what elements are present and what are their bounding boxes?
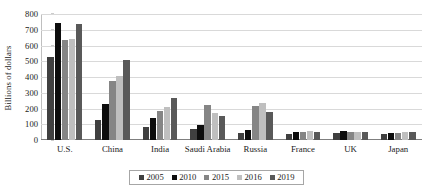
legend-label: 2005 <box>147 173 164 182</box>
bar <box>238 133 244 140</box>
bar <box>76 24 82 140</box>
bar-group <box>136 14 184 140</box>
bar <box>388 133 394 140</box>
bar-group <box>184 14 232 140</box>
bar <box>95 120 101 140</box>
x-axis-category-label: France <box>279 142 327 158</box>
bar <box>300 132 306 140</box>
bar <box>381 134 387 140</box>
y-axis-tick-label: 100 <box>13 120 38 129</box>
legend-swatch-icon <box>139 175 144 180</box>
bar <box>157 111 163 140</box>
y-axis-title-text: Billions of dollars <box>3 45 13 110</box>
legend-swatch-icon <box>172 175 177 180</box>
y-axis-tick-label: 700 <box>13 25 38 34</box>
x-axis-category-label: Saudi Arabia <box>184 142 232 158</box>
chart-legend: 20052010201520162019 <box>129 170 304 185</box>
bar <box>197 125 203 140</box>
x-axis-category-label: Russia <box>232 142 280 158</box>
bar <box>252 106 258 140</box>
legend-item[interactable]: 2005 <box>139 173 164 182</box>
x-axis-category-label: U.S. <box>41 142 89 158</box>
y-axis-tick-label: 400 <box>13 73 38 82</box>
bar <box>204 105 210 140</box>
legend-item[interactable]: 2016 <box>237 173 262 182</box>
y-axis-tick-label: 300 <box>13 88 38 97</box>
bar <box>102 104 108 140</box>
x-axis-category-label: UK <box>327 142 375 158</box>
legend-swatch-icon <box>204 175 209 180</box>
bar <box>293 132 299 140</box>
legend-swatch-icon <box>237 175 242 180</box>
bar <box>219 116 225 140</box>
bar-chart-figure: Billions of dollars 80070060050040030020… <box>0 0 430 193</box>
x-axis-category-label: India <box>136 142 184 158</box>
legend-item[interactable]: 2015 <box>204 173 229 182</box>
bar-group <box>374 14 422 140</box>
bar <box>307 131 313 140</box>
bar <box>123 60 129 140</box>
x-axis-category-labels: U.S.ChinaIndiaSaudi ArabiaRussiaFranceUK… <box>41 142 422 158</box>
bar <box>333 133 339 140</box>
y-axis-tick-label: 0 <box>13 136 38 145</box>
bar-group <box>327 14 375 140</box>
bar <box>286 134 292 140</box>
bar <box>354 132 360 140</box>
bar <box>143 127 149 140</box>
bar <box>212 113 218 140</box>
bar <box>245 130 251 140</box>
bar <box>171 98 177 140</box>
bar-groups <box>41 14 422 140</box>
legend-swatch-icon <box>270 175 275 180</box>
legend-label: 2019 <box>277 173 294 182</box>
bar <box>259 103 265 140</box>
y-axis-tick-label: 500 <box>13 57 38 66</box>
bar <box>362 132 368 140</box>
bar <box>347 132 353 140</box>
bar <box>69 39 75 140</box>
bar <box>266 112 272 140</box>
bar-group <box>232 14 280 140</box>
bar <box>314 132 320 140</box>
legend-label: 2016 <box>245 173 262 182</box>
x-axis-category-label: Japan <box>374 142 422 158</box>
bar <box>55 23 61 140</box>
legend-label: 2015 <box>212 173 229 182</box>
bar <box>395 133 401 140</box>
y-axis-tick-label: 600 <box>13 41 38 50</box>
bar <box>409 132 415 140</box>
bar-group <box>279 14 327 140</box>
legend-label: 2010 <box>179 173 196 182</box>
legend-item[interactable]: 2019 <box>270 173 295 182</box>
bar <box>190 129 196 140</box>
bar <box>116 76 122 140</box>
bar <box>62 40 68 140</box>
legend-item[interactable]: 2010 <box>172 173 197 182</box>
bar-group <box>41 14 89 140</box>
bar <box>47 57 53 140</box>
x-axis-category-label: China <box>89 142 137 158</box>
y-axis-tick-labels: 8007006005004003002001000 <box>13 14 38 140</box>
bar <box>340 131 346 140</box>
bar <box>164 107 170 140</box>
bar <box>402 132 408 140</box>
y-axis-tick-label: 200 <box>13 104 38 113</box>
bar <box>109 81 115 140</box>
y-axis-tick-label: 800 <box>13 10 38 19</box>
bar <box>150 118 156 140</box>
bar-group <box>89 14 137 140</box>
